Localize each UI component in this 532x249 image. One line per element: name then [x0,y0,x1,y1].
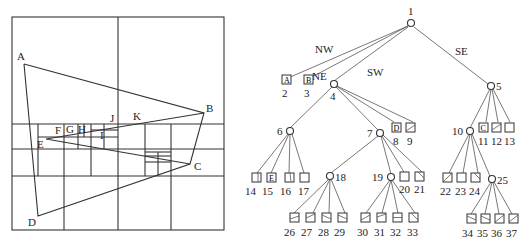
edge-label-se: SE [455,45,468,57]
tree-leaf-20: 20 [399,172,411,195]
node-label-7: 7 [367,127,373,139]
tree-leaf-17: 17 [298,173,310,197]
node-label-1: 1 [408,5,414,17]
leaf-label: 33 [407,226,419,238]
leaf-label: 29 [334,226,346,238]
tree-leaf-37: 37 [506,214,518,239]
leaf-label: 11 [478,135,489,147]
leaf-label: 31 [374,226,385,238]
leaf-glyph: D [394,124,400,133]
leaf-glyph: C [481,124,486,133]
point-label-k: K [133,110,141,122]
leaf-label: 26 [284,226,296,238]
leaf-glyph: E [269,174,274,183]
tree-leaf-35: 35 [477,214,490,239]
leaf-label: 37 [506,227,518,239]
tree-node-25 [489,176,496,183]
tree-leaf-27: 27 [301,213,315,238]
tree-leaf-28: 28 [318,213,331,238]
tree-leaf-22: 22 [440,173,452,197]
point-label-h: H [78,123,86,135]
tree-leaf-29: 29 [334,213,347,238]
point-label-g: G [66,123,74,135]
leaf-glyph: B [306,76,311,85]
point-label-a: A [17,50,25,62]
node-label-10: 10 [452,125,464,137]
tree-leaf-14: 14 [245,173,261,197]
point-label-e: E [37,138,44,150]
tree-node-19 [388,174,395,181]
point-label-j: J [110,112,115,124]
leaf-label: 21 [414,183,425,195]
leaf-label: 28 [318,226,330,238]
tree-leaf-11: C 11 [478,123,489,147]
tree-node-7 [377,130,384,137]
edge-label-sw: SW [367,66,384,78]
node-label-18: 18 [335,171,347,183]
tree-node-18 [327,173,334,180]
tree-leaf-15: E 15 [262,173,276,197]
leaf-label: 8 [393,135,399,147]
tree-leaf-16: 16 [280,173,294,197]
tree-leaf-13: 13 [504,123,516,147]
edge-label-ne: NE [312,70,327,82]
point-label-i: I [100,129,104,141]
tree-leaf-21: 21 [414,172,425,195]
tree-leaf-8: D 8 [392,123,401,147]
edge-label-nw: NW [315,43,334,55]
tree-node-4 [331,81,338,88]
tree-leaf-23: 23 [455,173,467,197]
tree-node-6 [287,128,294,135]
tree-node-10 [467,128,474,135]
leaf-label: 13 [504,135,516,147]
tree-leaf-31: 31 [374,213,386,238]
region-quadtree: A B C D E F G H I J K [12,17,224,230]
point-label-c: C [194,160,201,172]
tree-leaf-24: 24 [469,173,481,197]
node-label-19: 19 [372,171,384,183]
tree-leaf-26: 26 [284,213,299,238]
node-label-6: 6 [277,125,283,137]
leaf-label: 34 [462,227,474,239]
leaf-label: 9 [407,135,413,147]
leaf-label: 14 [245,185,257,197]
point-label-d: D [28,216,36,228]
leaf-label: 12 [491,135,502,147]
point-label-b: B [206,102,213,114]
tree-node-1 [408,20,415,27]
leaf-label: 30 [357,226,369,238]
quadtree-figure: A B C D E F G H I J K [0,0,532,249]
leaf-label: 22 [440,185,451,197]
leaf-label: 20 [399,183,411,195]
tree-leaf-36: 36 [491,214,504,239]
leaf-label: 36 [491,227,503,239]
leaf-label: 17 [298,185,310,197]
leaf-label: 23 [455,185,467,197]
leaf-label: 3 [304,87,310,99]
node-label-5: 5 [496,80,502,92]
leaf-label: 32 [390,226,401,238]
leaf-label: 35 [477,227,489,239]
tree-leaf-33: 33 [407,213,419,238]
node-label-25: 25 [497,174,509,186]
wedge-bec [46,113,204,164]
leaf-label: 15 [262,185,274,197]
tree-leaf-12: 12 [491,123,502,147]
leaf-glyph: A [284,76,290,85]
leaf-label: 24 [469,185,481,197]
leaf-label: 27 [301,226,313,238]
node-label-4: 4 [330,90,336,102]
quadtree-tree: NW NE SW SE 1 4 5 6 7 10 18 19 25 A 2 B … [245,5,518,239]
tree-leaf-3: B 3 [304,75,313,99]
tree-leaf-9: 9 [406,123,415,147]
point-label-f: F [55,124,61,136]
tree-leaf-34: 34 [462,214,476,239]
leaf-label: 2 [282,87,288,99]
tree-leaf-2: A 2 [282,75,291,99]
tree-node-5 [488,83,495,90]
leaf-label: 16 [280,185,292,197]
tree-leaf-32: 32 [390,213,402,238]
tree-leaf-30: 30 [357,213,370,238]
